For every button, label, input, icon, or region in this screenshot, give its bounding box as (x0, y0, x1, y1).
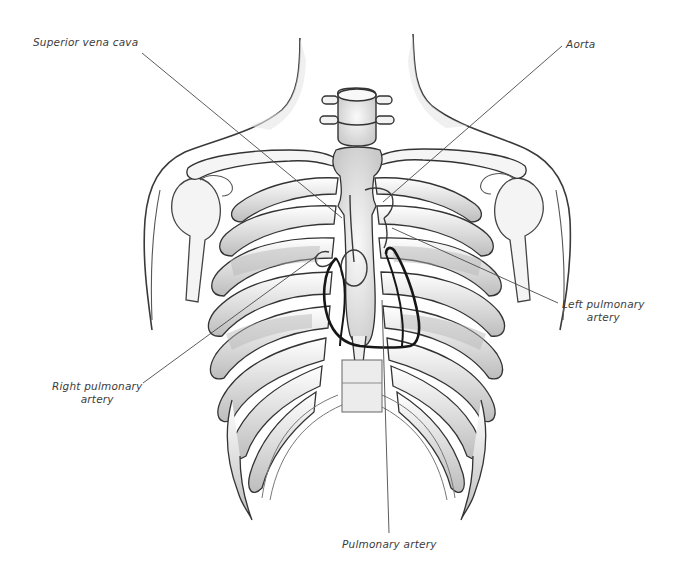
label-aorta-text: Aorta (566, 38, 595, 50)
label-pulmonary-artery-text: Pulmonary artery (342, 538, 437, 550)
label-superior-vena-cava-text: Superior vena cava (33, 36, 138, 48)
label-left-pulmonary-artery-line2: artery (562, 311, 645, 324)
humerus-left (151, 178, 220, 320)
vertebra (320, 88, 394, 146)
leader-superior-vena-cava (142, 53, 342, 218)
humerus-right (495, 178, 565, 320)
label-aorta: Aorta (566, 38, 595, 51)
label-superior-vena-cava: Superior vena cava (33, 36, 138, 49)
anatomy-figure: Superior vena cava Aorta Left pulmonary … (0, 0, 676, 577)
leader-pulmonary-artery (382, 300, 389, 533)
label-pulmonary-artery: Pulmonary artery (342, 538, 437, 551)
label-right-pulmonary-artery-line1: Right pulmonary (52, 380, 143, 393)
thorax-illustration (0, 0, 676, 577)
label-right-pulmonary-artery: Right pulmonary artery (52, 380, 143, 406)
label-left-pulmonary-artery-line1: Left pulmonary (562, 298, 645, 311)
ribs-left (208, 178, 338, 520)
label-right-pulmonary-artery-line2: artery (52, 393, 143, 406)
sternum (333, 147, 382, 412)
label-left-pulmonary-artery: Left pulmonary artery (562, 298, 645, 324)
